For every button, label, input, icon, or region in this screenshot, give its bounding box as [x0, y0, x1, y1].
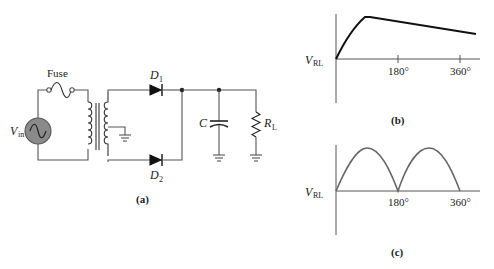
fuse-icon	[51, 83, 71, 98]
caption-b: (b)	[391, 114, 405, 127]
panel-c-waveform	[336, 145, 480, 235]
panel-b-tick-360: 360°	[450, 65, 471, 77]
capacitor-label: C	[199, 116, 208, 130]
caption-c: (c)	[391, 246, 404, 259]
vin-subscript: in	[18, 130, 24, 139]
fuse-terminal-right	[70, 88, 74, 92]
d2-label: D	[149, 168, 159, 182]
panel-b-tick-180: 180°	[388, 65, 409, 77]
rl-subscript: L	[272, 123, 277, 132]
resistor-rl-icon	[252, 112, 260, 137]
secondary-coil-icon	[104, 92, 108, 156]
diode-d1-icon	[150, 85, 161, 95]
panel-c-tick-180: 180°	[388, 196, 409, 208]
fuse-terminal-left	[47, 88, 51, 92]
ground-icon	[250, 155, 262, 161]
panel-b-waveform	[336, 14, 480, 103]
caption-a: (a)	[136, 193, 149, 206]
rectified-output-trace	[336, 148, 460, 191]
ground-icon	[213, 155, 225, 161]
d2-subscript: 2	[159, 175, 163, 184]
ground-icon	[119, 135, 131, 141]
panel-c-ylabel-sub: RL	[313, 191, 323, 200]
diode-d2-icon	[150, 155, 161, 165]
fuse-label: Fuse	[47, 67, 68, 79]
panel-a-circuit	[25, 83, 262, 167]
d1-label: D	[149, 68, 159, 82]
panel-b-ylabel-sub: RL	[313, 59, 323, 68]
filtered-output-trace	[336, 17, 476, 59]
primary-coil-icon	[88, 102, 92, 144]
full-wave-rectifier-figure: Fuse V in D 1 D 2 C R L (a) V RL 180° 36…	[0, 0, 494, 269]
rl-label: R	[263, 116, 272, 130]
panel-c-tick-360: 360°	[450, 196, 471, 208]
d1-subscript: 1	[159, 75, 163, 84]
